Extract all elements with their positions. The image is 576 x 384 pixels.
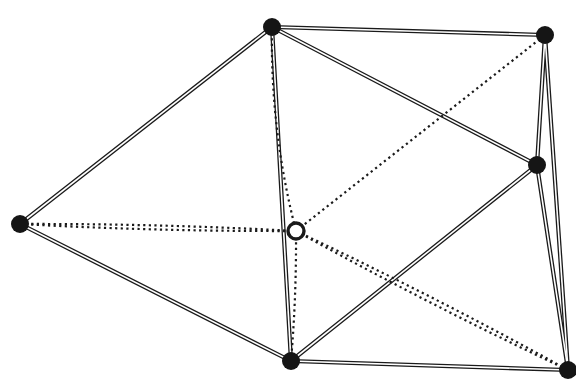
node-left[interactable] [11,215,29,233]
node-center[interactable] [288,223,304,239]
node-right_mid[interactable] [528,156,546,174]
figure-canvas [0,0,576,384]
graph-svg [0,0,576,384]
node-bottom[interactable] [282,352,300,370]
node-top_right[interactable] [536,26,554,44]
node-top[interactable] [263,18,281,36]
